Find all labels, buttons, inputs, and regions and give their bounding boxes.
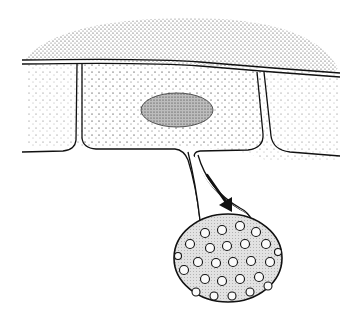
nucleus: [141, 93, 213, 127]
cell-illustration: [0, 0, 356, 314]
